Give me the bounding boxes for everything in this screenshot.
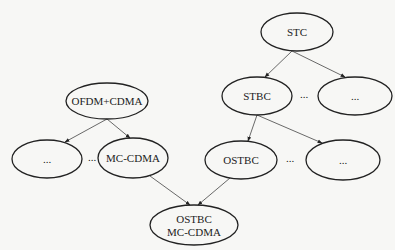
node-label: STC <box>287 26 307 38</box>
node-ofdm-other: ... <box>12 140 82 178</box>
node-stbc-other: ... <box>306 140 380 180</box>
edge-stbc-to-stbc-other <box>257 115 322 143</box>
node-stbc: STBC <box>222 77 292 115</box>
node-label: MC-CDMA <box>106 152 160 164</box>
arrow-icon <box>107 119 130 138</box>
edge-ofdm-cdma-to-mc-cdma <box>107 119 130 138</box>
arrow-icon <box>198 178 230 205</box>
edge-ostbc-to-ostbc-mc-cdma <box>198 178 230 205</box>
node-label: OSTBC <box>176 213 211 225</box>
node-label: OFDM+CDMA <box>72 95 143 107</box>
edge-mc-cdma-to-ostbc-mc-cdma <box>150 176 190 205</box>
dots-stc-row: ... <box>300 88 309 100</box>
tree-diagram: STCSTBC...OFDM+CDMA...MC-CDMAOSTBC...OST… <box>0 0 395 250</box>
dots-ofdm-row: ... <box>88 151 97 163</box>
edge-stc-to-stbc <box>265 51 292 77</box>
node-label: ... <box>339 154 348 166</box>
arrow-icon <box>150 176 190 205</box>
edge-ofdm-cdma-to-ofdm-other <box>65 119 107 142</box>
node-ostbc: OSTBC <box>205 141 277 179</box>
arrow-icon <box>65 119 107 142</box>
node-mc-cdma: MC-CDMA <box>98 138 168 178</box>
node-stc-other: ... <box>318 77 392 115</box>
node-label: OSTBC <box>223 154 258 166</box>
node-label: ... <box>43 153 52 165</box>
node-stc: STC <box>261 13 333 51</box>
nodes-layer: STCSTBC...OFDM+CDMA...MC-CDMAOSTBC...OST… <box>12 13 392 245</box>
node-label: MC-CDMA <box>167 226 221 238</box>
arrow-icon <box>257 115 322 143</box>
node-ostbc-mc-cdma: OSTBCMC-CDMA <box>150 205 238 245</box>
edges-layer <box>65 51 345 205</box>
dots-stbc-row: ... <box>286 152 295 164</box>
node-label: ... <box>351 90 360 102</box>
edge-stbc-to-ostbc <box>248 115 257 141</box>
arrow-icon <box>248 115 257 141</box>
edge-stc-to-stc-other <box>292 51 345 77</box>
arrow-icon <box>292 51 345 77</box>
arrow-icon <box>265 51 292 77</box>
node-label: STBC <box>243 90 271 102</box>
node-ofdm-cdma: OFDM+CDMA <box>66 83 148 119</box>
